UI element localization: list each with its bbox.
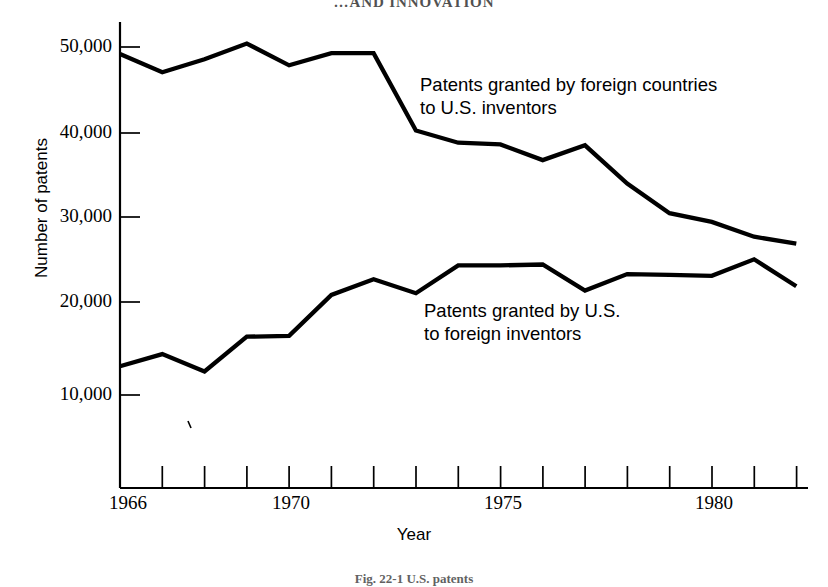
x-tick-label: 1980 bbox=[695, 492, 733, 514]
series-annotation-foreign-to-us: Patents granted by foreign countries to … bbox=[420, 74, 717, 120]
scan-speck bbox=[188, 421, 191, 428]
x-tick-label: 1970 bbox=[272, 492, 310, 514]
x-tick-label: 1966 bbox=[109, 492, 147, 514]
x-tick-label: 1975 bbox=[484, 492, 522, 514]
annotation-line: to U.S. inventors bbox=[420, 97, 717, 120]
annotation-line: Patents granted by U.S. bbox=[424, 300, 620, 323]
series-annotation-us-to-foreign: Patents granted by U.S. to foreign inven… bbox=[424, 300, 620, 346]
y-tick-marks bbox=[120, 47, 140, 395]
figure-caption: Fig. 22-1 U.S. patents bbox=[0, 571, 828, 587]
annotation-line: to foreign inventors bbox=[424, 323, 620, 346]
annotation-line: Patents granted by foreign countries bbox=[420, 74, 717, 97]
x-tick-marks bbox=[120, 466, 797, 488]
x-axis-title: Year bbox=[0, 525, 828, 545]
